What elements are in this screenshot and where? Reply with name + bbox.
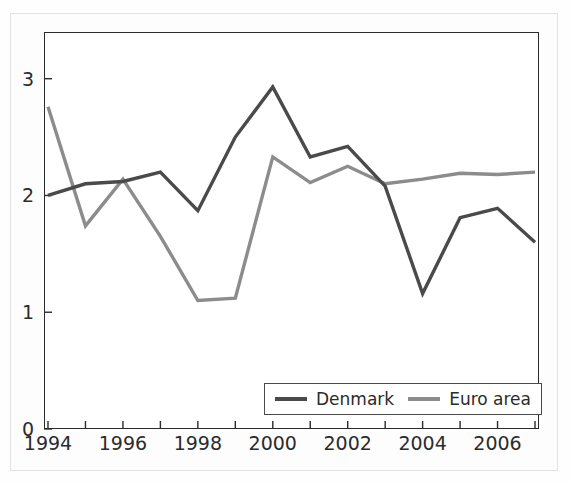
chart-canvas: [44, 32, 539, 429]
series-line-denmark: [48, 87, 535, 294]
y-tick-label: 1: [22, 303, 34, 322]
series-line-euro-area: [48, 107, 535, 301]
x-tick-label: 2004: [398, 434, 446, 453]
x-tick-label: 2000: [249, 434, 297, 453]
legend-entry-euro-area[interactable]: Euro area: [408, 391, 531, 408]
y-axis-tick-labels: 0123: [0, 32, 34, 429]
chart-legend[interactable]: DenmarkEuro area: [264, 383, 542, 415]
legend-label: Euro area: [449, 391, 531, 408]
x-tick-label: 1996: [99, 434, 147, 453]
y-tick-label: 3: [22, 69, 34, 88]
legend-line-swatch-icon: [275, 397, 307, 401]
x-tick-label: 1998: [174, 434, 222, 453]
x-axis-tick-labels: 1994199619982000200220042006: [44, 434, 539, 464]
x-tick-label: 1994: [24, 434, 72, 453]
chart-figure: 0123 1994199619982000200220042006 Denmar…: [0, 0, 572, 483]
x-tick-label: 2002: [324, 434, 372, 453]
x-tick-label: 2006: [473, 434, 521, 453]
legend-line-swatch-icon: [408, 397, 440, 401]
y-tick-label: 2: [22, 186, 34, 205]
legend-label: Denmark: [316, 391, 394, 408]
legend-entry-denmark[interactable]: Denmark: [275, 391, 394, 408]
plot-area: [44, 32, 539, 429]
